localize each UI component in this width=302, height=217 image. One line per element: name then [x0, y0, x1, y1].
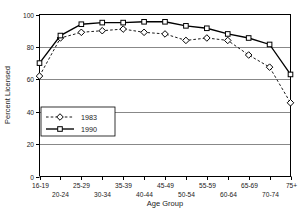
- x-tick-label: 65-69: [241, 182, 258, 189]
- data-point-square: [100, 20, 105, 25]
- x-tick-label: 20-24: [52, 191, 69, 198]
- data-point-square: [225, 32, 230, 37]
- x-tick-label: 35-39: [115, 182, 132, 189]
- data-point-square: [121, 20, 126, 25]
- y-tick-label: 20: [27, 141, 35, 148]
- data-point-square: [142, 19, 147, 24]
- data-point-square: [184, 24, 189, 29]
- y-tick-label: 60: [27, 76, 35, 83]
- x-tick-label: 45-49: [157, 182, 174, 189]
- data-point-square: [79, 22, 84, 27]
- line-chart: 020406080100 16-1920-2425-2930-3435-3940…: [0, 0, 302, 217]
- chart-container: 020406080100 16-1920-2425-2930-3435-3940…: [0, 0, 302, 217]
- x-tick-label: 40-44: [136, 191, 153, 198]
- x-tick-label: 16-19: [32, 182, 49, 189]
- x-tick-label: 50-54: [178, 191, 195, 198]
- data-point-square: [288, 72, 293, 77]
- x-tick-label: 75+: [286, 182, 297, 189]
- legend-label-1990: 1990: [81, 125, 97, 134]
- x-axis-title: Age Group: [147, 199, 183, 208]
- legend-border: [41, 107, 115, 136]
- data-point-square: [246, 36, 251, 41]
- legend-label-1983: 1983: [81, 113, 97, 122]
- data-point-square: [58, 127, 63, 132]
- data-point-square: [37, 61, 42, 66]
- x-tick-label: 25-29: [73, 182, 90, 189]
- y-tick-label: 40: [27, 109, 35, 116]
- y-tick-label: 0: [30, 174, 34, 181]
- x-tick-label: 60-64: [220, 191, 237, 198]
- x-tick-label: 55-59: [199, 182, 216, 189]
- x-tick-label: 30-34: [94, 191, 111, 198]
- x-tick-label: 70-74: [262, 191, 279, 198]
- data-point-square: [267, 42, 272, 47]
- y-tick-label: 100: [23, 12, 34, 19]
- data-point-square: [163, 19, 168, 24]
- y-tick-label: 80: [27, 44, 35, 51]
- data-point-square: [58, 33, 63, 38]
- legend: [41, 107, 115, 136]
- data-point-square: [205, 26, 210, 31]
- y-axis-title: Percent Licensed: [3, 66, 12, 124]
